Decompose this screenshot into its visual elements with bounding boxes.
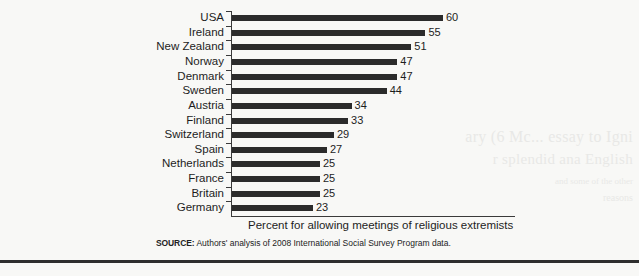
bar-row: Spain27: [231, 143, 515, 158]
bar: [232, 205, 313, 211]
plot-area: USA60Ireland55New Zealand51Norway47Denma…: [231, 11, 515, 216]
bar: [232, 103, 352, 109]
y-axis-tick: [226, 143, 231, 144]
bar: [232, 59, 397, 65]
bar-row: Sweden44: [231, 84, 515, 99]
bar: [232, 161, 320, 167]
category-label: Sweden: [182, 82, 224, 98]
source-note: SOURCE: Authors' analysis of 2008 Intern…: [156, 238, 451, 248]
y-axis-tick: [226, 157, 231, 158]
bar: [232, 74, 397, 80]
bar-row: Netherlands25: [231, 157, 515, 172]
bar-row: USA60: [231, 11, 515, 26]
bar-row: Austria34: [231, 99, 515, 114]
y-axis-tick: [226, 99, 231, 100]
y-axis-tick: [226, 70, 231, 71]
category-label: Switzerland: [165, 126, 224, 142]
category-label: Britain: [191, 185, 224, 201]
category-label: Netherlands: [162, 155, 224, 171]
bar-value-label: 51: [414, 39, 426, 53]
bar-value-label: 47: [400, 54, 412, 68]
bar: [232, 147, 327, 153]
bar-chart-figure: USA60Ireland55New Zealand51Norway47Denma…: [0, 0, 639, 276]
category-label: USA: [200, 9, 224, 25]
bar: [232, 176, 320, 182]
category-label: New Zealand: [156, 38, 224, 54]
y-axis-tick: [226, 114, 231, 115]
category-label: France: [188, 170, 224, 186]
category-label: Ireland: [189, 24, 224, 40]
source-label: SOURCE:: [156, 238, 195, 248]
bar: [232, 191, 320, 197]
bar-row: Britain25: [231, 187, 515, 202]
category-label: Norway: [185, 53, 224, 69]
y-axis-tick: [226, 201, 231, 202]
bar-value-label: 55: [428, 25, 440, 39]
bar-value-label: 29: [337, 127, 349, 141]
y-axis-tick: [226, 11, 231, 12]
category-label: Austria: [188, 97, 224, 113]
bar-row: Finland33: [231, 114, 515, 129]
y-axis-tick: [226, 187, 231, 188]
category-label: Spain: [195, 141, 224, 157]
bar-row: New Zealand51: [231, 40, 515, 55]
y-axis-tick: [226, 172, 231, 173]
bar: [232, 30, 425, 36]
bar-row: Germany23: [231, 201, 515, 216]
bar-value-label: 47: [400, 69, 412, 83]
bar-value-label: 44: [390, 83, 402, 97]
y-axis-tick: [226, 55, 231, 56]
bar: [232, 15, 443, 21]
source-text: Authors' analysis of 2008 International …: [196, 238, 450, 248]
bar-value-label: 27: [330, 142, 342, 156]
bar-value-label: 33: [351, 113, 363, 127]
bar: [232, 118, 348, 124]
y-axis-tick: [226, 128, 231, 129]
bar: [232, 132, 334, 138]
bottom-rule: [0, 260, 639, 263]
bar-value-label: 60: [446, 10, 458, 24]
y-axis-tick: [226, 26, 231, 27]
bar-value-label: 25: [323, 156, 335, 170]
bar-value-label: 23: [316, 200, 328, 214]
category-label: Finland: [186, 112, 224, 128]
bar-row: Ireland55: [231, 26, 515, 41]
bar-value-label: 25: [323, 186, 335, 200]
bar-value-label: 25: [323, 171, 335, 185]
bar-row: Norway47: [231, 55, 515, 70]
bar: [232, 88, 387, 94]
y-axis-tick: [226, 84, 231, 85]
category-label: Denmark: [177, 68, 224, 84]
bar-row: Switzerland29: [231, 128, 515, 143]
y-axis-tick: [226, 40, 231, 41]
bar: [232, 44, 411, 50]
bar-row: France25: [231, 172, 515, 187]
bar-value-label: 34: [355, 98, 367, 112]
x-axis-line: [231, 216, 515, 217]
x-axis-title: Percent for allowing meetings of religio…: [248, 219, 513, 231]
bar-row: Denmark47: [231, 70, 515, 85]
category-label: Germany: [177, 199, 224, 215]
